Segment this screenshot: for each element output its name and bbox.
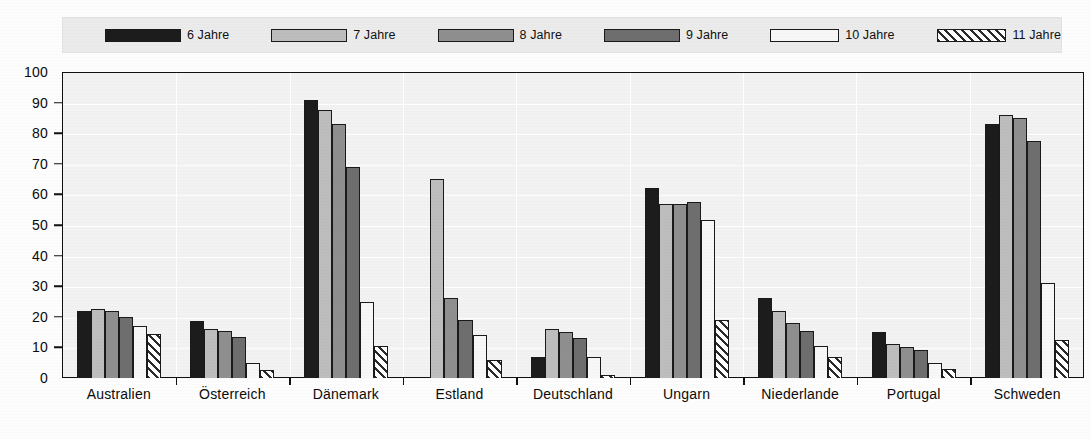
bar [814, 346, 828, 378]
bar [573, 338, 587, 378]
legend-item-label: 8 Jahre [520, 28, 562, 42]
y-tick-mark [54, 224, 62, 226]
y-tick-label: 40 [32, 248, 48, 264]
x-axis-ticks [62, 378, 1084, 386]
y-tick-mark [54, 285, 62, 287]
bar [1013, 118, 1027, 378]
bar [487, 360, 501, 378]
y-tick-mark [54, 102, 62, 104]
bar-group [743, 72, 857, 378]
bar [800, 331, 814, 378]
bar-group [630, 72, 744, 378]
x-tick-mark [743, 378, 745, 385]
bar [105, 311, 119, 378]
legend-item-label: 6 Jahre [187, 28, 229, 42]
bar-group-bars [190, 72, 274, 378]
bar-group [857, 72, 971, 378]
x-tick-mark [516, 378, 518, 385]
x-axis-labels: AustralienÖsterreichDänemarkEstlandDeuts… [62, 386, 1084, 412]
bar [886, 344, 900, 378]
y-tick-mark [54, 163, 62, 165]
y-tick-mark [54, 347, 62, 349]
bar [119, 317, 133, 378]
bar [900, 347, 914, 378]
x-tick-mark [970, 378, 972, 385]
legend-item: 11 Jahre [895, 28, 1061, 42]
bar [246, 363, 260, 378]
bar [473, 335, 487, 378]
bar [232, 337, 246, 378]
chart-page: 6 Jahre7 Jahre8 Jahre9 Jahre10 Jahre11 J… [0, 0, 1091, 439]
y-tick-label: 20 [32, 309, 48, 325]
bar [786, 323, 800, 378]
bar-groups [62, 72, 1084, 378]
bar-group-bars [758, 72, 842, 378]
bar [715, 320, 729, 378]
x-tick-mark [176, 378, 178, 385]
x-tick-mark [289, 378, 291, 385]
y-tick-label: 80 [32, 125, 48, 141]
bar [1041, 283, 1055, 378]
legend-item: 10 Jahre [728, 28, 894, 42]
legend-swatch-10-jahre [770, 29, 839, 42]
x-axis-category-label: Niederlande [743, 386, 857, 412]
bar-group-bars [304, 72, 388, 378]
bar [1027, 141, 1041, 378]
legend-swatch-6-jahre [105, 29, 181, 42]
bar [942, 369, 956, 378]
bar [260, 370, 274, 378]
bar-group-bars [77, 72, 161, 378]
bar [772, 311, 786, 378]
bar [659, 204, 673, 378]
bar [673, 204, 687, 378]
x-axis-category-label: Portugal [857, 386, 971, 412]
bar [985, 124, 999, 378]
bar [531, 357, 545, 378]
legend-item-label: 7 Jahre [353, 28, 395, 42]
chart-legend: 6 Jahre7 Jahre8 Jahre9 Jahre10 Jahre11 J… [62, 17, 1062, 53]
bar [133, 326, 147, 378]
bar [346, 167, 360, 378]
y-tick-label: 90 [32, 95, 48, 111]
x-axis-category-label: Österreich [176, 386, 290, 412]
y-tick-mark [54, 194, 62, 196]
x-axis-category-label: Estland [403, 386, 517, 412]
y-axis: 1009080706050403020100 [0, 72, 56, 378]
bar-group [62, 72, 176, 378]
legend-item-label: 9 Jahre [686, 28, 728, 42]
y-tick-label: 0 [40, 370, 48, 386]
bar-group [289, 72, 403, 378]
bar [374, 346, 388, 378]
legend-item-label: 10 Jahre [845, 28, 894, 42]
bar [430, 179, 444, 378]
y-tick-label: 10 [32, 339, 48, 355]
bar [559, 332, 573, 378]
bar [77, 311, 91, 378]
bar-group [971, 72, 1085, 378]
bar [545, 329, 559, 378]
x-tick-mark [630, 378, 632, 385]
legend-item: 6 Jahre [63, 28, 229, 42]
bar-group-bars [985, 72, 1069, 378]
y-tick-mark [54, 132, 62, 134]
legend-swatch-8-jahre [438, 29, 514, 42]
bar [360, 302, 374, 379]
bar [332, 124, 346, 378]
bar [828, 357, 842, 378]
bar [147, 334, 161, 378]
x-axis-category-label: Ungarn [630, 386, 744, 412]
legend-item: 9 Jahre [562, 28, 728, 42]
bar [91, 309, 105, 378]
bar [304, 100, 318, 378]
y-tick-label: 60 [32, 186, 48, 202]
bar-group-bars [645, 72, 729, 378]
y-tick-label: 50 [32, 217, 48, 233]
x-axis-category-label: Dänemark [289, 386, 403, 412]
bar [218, 331, 232, 378]
bar-group [516, 72, 630, 378]
y-tick-label: 30 [32, 278, 48, 294]
legend-swatch-11-jahre [937, 29, 1007, 42]
x-tick-mark [403, 378, 405, 385]
y-tick-label: 70 [32, 156, 48, 172]
bar [687, 202, 701, 378]
